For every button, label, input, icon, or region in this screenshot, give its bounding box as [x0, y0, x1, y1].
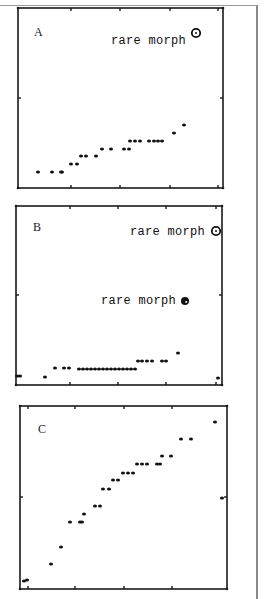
data-point	[84, 155, 88, 158]
data-point	[117, 368, 121, 371]
data-point	[131, 472, 135, 475]
data-point	[49, 563, 53, 566]
data-point	[127, 148, 131, 151]
data-point	[53, 367, 57, 370]
scatter-panels: Arare morph Brare morphrare morph C	[0, 0, 264, 599]
data-point	[59, 546, 63, 549]
data-point	[82, 513, 86, 516]
data-point	[67, 367, 71, 370]
panel-c: C	[19, 405, 229, 591]
data-point	[133, 368, 137, 371]
data-point	[140, 463, 144, 466]
data-point	[60, 171, 64, 174]
data-point	[160, 360, 164, 363]
data-point	[113, 368, 117, 371]
data-point	[179, 438, 183, 441]
data-point	[140, 360, 144, 363]
data-point	[68, 521, 72, 524]
data-point	[75, 163, 79, 166]
data-point	[18, 375, 22, 378]
rare-morph-label: rare morph	[101, 294, 176, 308]
data-point	[182, 124, 186, 127]
plot-frame	[20, 406, 227, 589]
rare-morph-label: rare morph	[130, 225, 205, 239]
data-point	[93, 505, 97, 508]
data-point	[107, 488, 111, 491]
data-point	[152, 140, 156, 143]
data-point	[164, 360, 168, 363]
data-point	[158, 463, 162, 466]
data-point	[80, 521, 84, 524]
panel-label: B	[33, 220, 41, 234]
rare-morph-label: rare morph	[111, 34, 186, 48]
data-point	[93, 368, 97, 371]
data-point	[101, 368, 105, 371]
data-point	[160, 140, 164, 143]
data-point	[147, 140, 151, 143]
data-point	[150, 360, 154, 363]
data-point	[136, 360, 140, 363]
data-point	[43, 376, 47, 379]
data-point	[69, 163, 73, 166]
data-point	[160, 455, 164, 458]
data-point	[101, 488, 105, 491]
panel-a: Arare morph	[17, 7, 225, 190]
data-point	[116, 479, 120, 482]
data-point	[145, 463, 149, 466]
data-point	[135, 463, 139, 466]
data-point	[79, 155, 83, 158]
data-point	[81, 368, 85, 371]
data-point	[128, 140, 132, 143]
data-point	[213, 421, 217, 424]
data-point	[126, 472, 130, 475]
data-point	[122, 148, 126, 151]
panel-label: C	[38, 422, 46, 436]
rare-morph-marker-icon	[181, 297, 189, 305]
data-point	[105, 368, 109, 371]
data-point	[94, 155, 98, 158]
data-point	[138, 140, 142, 143]
data-point	[100, 148, 104, 151]
data-point	[189, 438, 193, 441]
data-point	[129, 368, 133, 371]
data-point	[121, 368, 125, 371]
data-point	[145, 360, 149, 363]
data-point	[25, 579, 29, 582]
data-point	[169, 455, 173, 458]
data-point	[89, 368, 93, 371]
data-point	[62, 367, 66, 370]
data-point	[109, 148, 113, 151]
data-point	[172, 132, 176, 135]
data-point	[109, 368, 113, 371]
data-point	[98, 505, 102, 508]
data-point	[176, 352, 180, 355]
data-point	[36, 171, 40, 174]
data-point	[133, 140, 137, 143]
data-point	[125, 368, 129, 371]
panel-b: Brare morphrare morph	[15, 205, 224, 387]
data-point	[220, 497, 224, 500]
data-point	[121, 472, 125, 475]
data-point	[77, 368, 81, 371]
panel-label: A	[34, 25, 43, 39]
data-point	[111, 479, 115, 482]
data-point	[216, 377, 220, 380]
data-point	[85, 368, 89, 371]
data-point	[50, 171, 54, 174]
data-point	[156, 140, 160, 143]
data-point	[97, 368, 101, 371]
